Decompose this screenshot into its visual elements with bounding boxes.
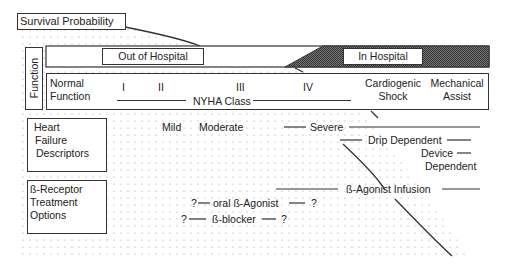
descriptor-severe: Severe	[310, 121, 343, 133]
descriptor-moderate: Moderate	[199, 121, 243, 133]
nyha-line-left	[117, 100, 186, 101]
oral-agonist-q-right: ?	[311, 197, 317, 209]
treatment-oral-agonist: oral ß-Agonist	[213, 197, 278, 209]
treatment-agonist-infusion: ß-Agonist Infusion	[346, 183, 431, 195]
nyha-class-i: I	[122, 81, 125, 93]
out-of-hospital-label: Out of Hospital	[102, 50, 204, 62]
oral-agonist-q-left: ?	[191, 197, 197, 209]
descriptor-device-line1: Device	[421, 147, 453, 159]
nyha-line-right	[253, 100, 351, 101]
mechanical-assist-line2: Assist	[424, 90, 490, 102]
hf-descriptors-line1: Heart	[34, 121, 60, 133]
cardiogenic-shock-line1: Cardiogenic	[358, 77, 428, 89]
blocker-q-left: ?	[181, 213, 187, 225]
treatment-beta-blocker: ß-blocker	[212, 213, 256, 225]
cardiogenic-shock-line2: Shock	[358, 90, 428, 102]
descriptor-drip-dependent: Drip Dependent	[368, 134, 442, 146]
hf-descriptors-line3: Descriptors	[36, 147, 89, 159]
mechanical-assist-line1: Mechanical	[424, 77, 490, 89]
nyha-class-label: NYHA Class	[193, 95, 251, 107]
nyha-class-iv: IV	[303, 81, 313, 93]
blocker-q-right: ?	[281, 213, 287, 225]
treatment-box-line2: Treatment	[30, 196, 77, 208]
in-hospital-label: In Hospital	[343, 50, 423, 62]
nyha-class-ii: II	[158, 81, 164, 93]
nyha-class-iii: III	[236, 81, 245, 93]
survival-probability-label: Survival Probability	[20, 15, 114, 27]
treatment-box-line3: Options	[30, 209, 66, 221]
treatment-box-line1: ß-Receptor	[30, 183, 83, 195]
hf-descriptors-line2: Failure	[35, 134, 67, 146]
normal-function-line2: Function	[50, 90, 90, 102]
descriptor-device-line2: Dependent	[425, 160, 476, 172]
descriptor-mild: Mild	[162, 121, 181, 133]
normal-function-line1: Normal	[50, 77, 84, 89]
function-label: Function	[28, 49, 40, 107]
